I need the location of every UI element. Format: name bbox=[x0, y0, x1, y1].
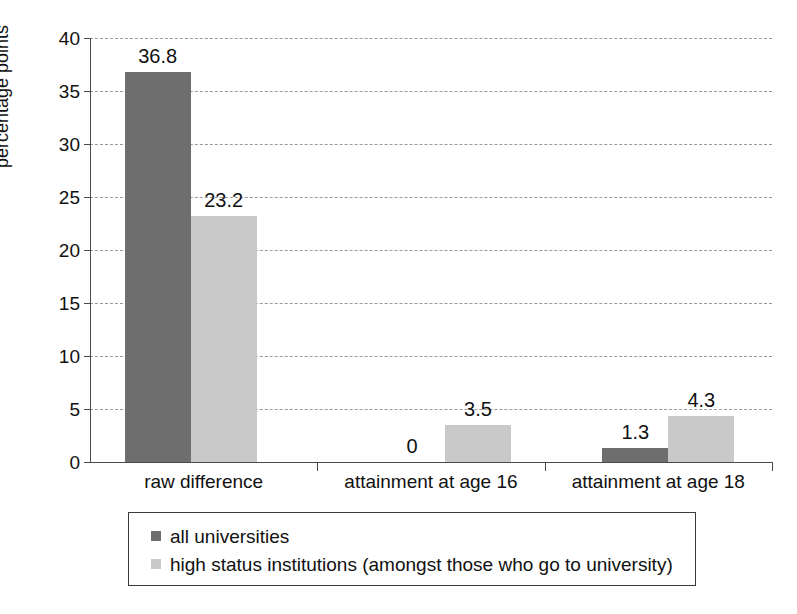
y-axis-title: percentage points bbox=[0, 0, 13, 168]
x-axis-category-label: attainment at age 16 bbox=[317, 472, 544, 491]
bar-value-label: 23.2 bbox=[177, 190, 271, 210]
legend-item-label: high status institutions (amongst those … bbox=[170, 555, 673, 574]
y-axis-tick-label: 15 bbox=[36, 294, 80, 313]
x-axis-category-label: attainment at age 18 bbox=[545, 472, 772, 491]
bar[interactable] bbox=[191, 216, 257, 462]
y-axis-tick-label: 10 bbox=[36, 347, 80, 366]
bar-value-label: 36.8 bbox=[111, 46, 205, 66]
gridline bbox=[90, 462, 772, 463]
y-axis-tick-label: 30 bbox=[36, 135, 80, 154]
legend-swatch-icon bbox=[151, 559, 161, 569]
y-axis-tick-label: 25 bbox=[36, 188, 80, 207]
bar[interactable] bbox=[668, 416, 734, 462]
y-axis-tick-label: 20 bbox=[36, 241, 80, 260]
x-axis-separator-tick bbox=[545, 462, 546, 471]
y-axis-tick-label: 5 bbox=[36, 400, 80, 419]
legend-item-label: all universities bbox=[170, 527, 289, 546]
bar[interactable] bbox=[445, 425, 511, 462]
bar[interactable] bbox=[125, 72, 191, 462]
bar-chart-figure: percentage points 4035302520151050 36.82… bbox=[0, 0, 797, 614]
legend-swatch-icon bbox=[151, 531, 161, 541]
bar-value-label: 4.3 bbox=[654, 390, 748, 410]
x-axis-separator-tick bbox=[772, 462, 773, 471]
plot-area: 36.823.203.51.34.3 bbox=[90, 38, 772, 462]
y-axis-tick-mark bbox=[84, 462, 91, 463]
bar[interactable] bbox=[602, 448, 668, 462]
x-axis-category-label: raw difference bbox=[90, 472, 317, 491]
y-axis-tick-label: 0 bbox=[36, 453, 80, 472]
y-axis-tick-label: 40 bbox=[36, 29, 80, 48]
legend-item[interactable]: all universities bbox=[151, 522, 695, 550]
legend-item[interactable]: high status institutions (amongst those … bbox=[151, 550, 695, 578]
chart-legend: all universities high status institution… bbox=[128, 512, 696, 586]
y-axis-tick-label: 35 bbox=[36, 82, 80, 101]
bar-value-label: 3.5 bbox=[431, 399, 525, 419]
x-axis-separator-tick bbox=[317, 462, 318, 471]
